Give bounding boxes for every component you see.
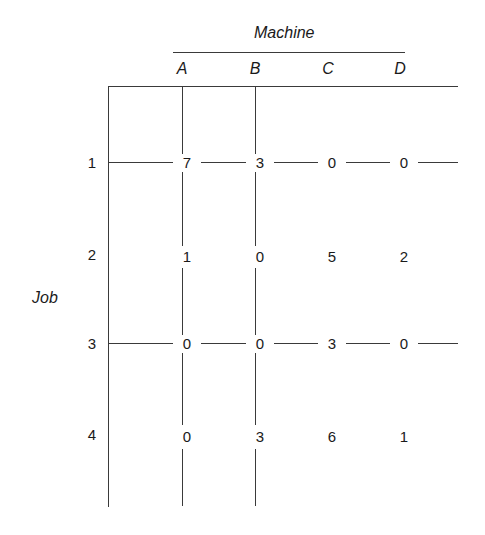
row-label-4: 4	[85, 426, 99, 443]
cell-4-c: 6	[318, 425, 346, 449]
cell-2-b: 0	[246, 246, 274, 268]
cell-4-a: 0	[173, 425, 201, 449]
column-header-b: B	[245, 60, 265, 78]
cell-3-c: 3	[318, 335, 346, 353]
cell-2-d: 2	[390, 246, 418, 268]
column-header-d: D	[390, 60, 410, 78]
cell-3-a: 0	[173, 335, 201, 353]
cell-2-c: 5	[318, 246, 346, 268]
row-axis-title: Job	[32, 289, 58, 307]
table-top-border	[108, 86, 458, 87]
column-header-a: A	[172, 60, 192, 78]
cell-1-c: 0	[318, 154, 346, 172]
table-left-border	[108, 86, 109, 507]
cell-3-b: 0	[246, 335, 274, 353]
row-label-1: 1	[85, 154, 99, 171]
cell-4-d: 1	[390, 425, 418, 449]
column-header-c: C	[318, 60, 338, 78]
row-label-2: 2	[85, 246, 99, 263]
row-label-3: 3	[85, 335, 99, 352]
cell-1-b: 3	[246, 154, 274, 172]
column-axis-title: Machine	[254, 24, 314, 42]
column-title-underline	[173, 52, 405, 53]
cell-1-a: 7	[173, 154, 201, 172]
cell-1-d: 0	[390, 154, 418, 172]
cell-2-a: 1	[173, 246, 201, 268]
cell-3-d: 0	[390, 335, 418, 353]
cell-4-b: 3	[246, 425, 274, 449]
